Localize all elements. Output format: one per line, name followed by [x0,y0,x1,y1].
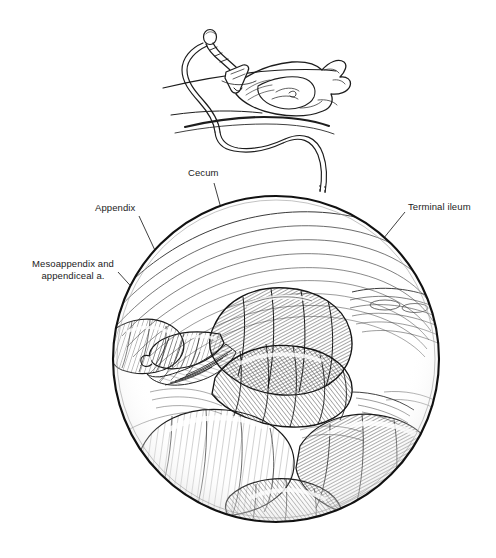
scope-band-2 [215,53,222,56]
patient-inset-group [163,30,350,153]
umbilicus [289,91,296,97]
scope-vignette [113,196,439,522]
label-appendix: Appendix [95,202,135,214]
light-cable-inset [182,43,285,152]
body-lower-edge [185,117,329,127]
label-terminal-ileum: Terminal ileum [408,201,471,213]
label-cecum: Cecum [188,167,219,179]
flank-contour-1 [258,77,315,109]
drape-line-lower [171,111,262,115]
scope-view-group [109,196,441,544]
body-lower-edge-soft [175,124,334,134]
cable-inset-outer [182,43,215,132]
cable-inset-inner [187,46,220,132]
flank-contour-2 [276,88,299,92]
scope-field-contents [109,196,441,544]
laparoscope-group [204,30,257,94]
neck-fold [333,80,345,84]
torso-outline [236,60,350,115]
scope-cable [283,135,327,193]
illustration-page: Cecum Appendix Mesoappendix and appendic… [0,0,496,558]
scope-band-3 [220,59,228,62]
label-mesoappendix: Mesoappendix and appendiceal a. [21,258,125,282]
cable-descender-outer [283,139,322,192]
